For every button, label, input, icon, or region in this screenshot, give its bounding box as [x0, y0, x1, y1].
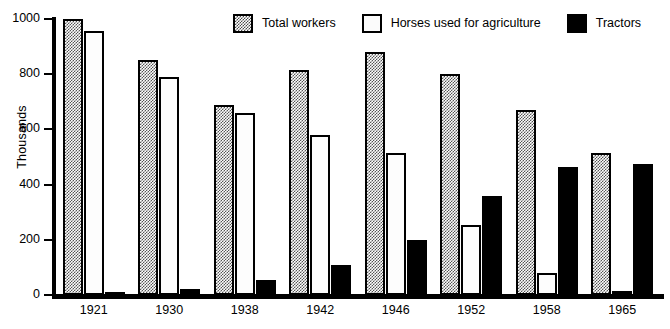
bar-tractors [633, 164, 653, 295]
bar-horses [386, 153, 406, 295]
x-axis-tick-label: 1965 [585, 303, 661, 317]
bar-total-workers [138, 60, 158, 295]
bar-horses [84, 31, 104, 295]
bar-group [207, 19, 283, 295]
bar-group [283, 19, 359, 295]
bar-group [56, 19, 132, 295]
bar-tractors [105, 292, 125, 295]
bar-group [585, 19, 661, 295]
x-axis-tick-label: 1958 [509, 303, 585, 317]
bar-total-workers [214, 105, 234, 295]
y-axis-tick-label: 400 [4, 178, 40, 190]
bar-total-workers [63, 19, 83, 295]
bar-horses [159, 77, 179, 295]
bar-group [434, 19, 510, 295]
bar-group [509, 19, 585, 295]
bar-total-workers [516, 110, 536, 295]
bar-tractors [256, 280, 276, 295]
bar-group [358, 19, 434, 295]
y-axis-tick [44, 294, 53, 296]
bar-tractors [482, 196, 502, 295]
bar-horses [310, 135, 330, 295]
bar-group [132, 19, 208, 295]
x-axis-tick-label: 1952 [434, 303, 510, 317]
bar-total-workers [440, 74, 460, 295]
y-axis-tick [44, 128, 53, 130]
y-axis-title: Thousands [15, 89, 29, 185]
y-axis-tick-label: 0 [4, 288, 40, 300]
y-axis-tick [44, 73, 53, 75]
y-axis-tick [44, 18, 53, 20]
y-axis-tick-label: 600 [4, 122, 40, 134]
x-axis-tick-label: 1930 [132, 303, 208, 317]
bar-total-workers [365, 52, 385, 295]
bar-tractors [407, 240, 427, 295]
y-axis-tick-label: 800 [4, 67, 40, 79]
y-axis-tick [44, 239, 53, 241]
bar-tractors [558, 167, 578, 295]
x-axis-tick-label: 1942 [283, 303, 359, 317]
y-axis-tick-label: 1000 [4, 12, 40, 24]
bar-tractors [180, 289, 200, 295]
bar-chart: Total workers Horses used for agricultur… [0, 0, 670, 329]
bar-tractors [331, 265, 351, 295]
bar-groups [56, 19, 660, 295]
x-axis-tick-labels: 19211930193819421946195219581965 [56, 303, 660, 317]
bar-horses [612, 291, 632, 295]
y-axis-tick [44, 184, 53, 186]
x-axis-tick-label: 1938 [207, 303, 283, 317]
bar-horses [537, 273, 557, 295]
bar-total-workers [289, 70, 309, 295]
bar-horses [235, 113, 255, 295]
bar-total-workers [591, 153, 611, 295]
x-axis-tick-label: 1921 [56, 303, 132, 317]
x-axis-tick-label: 1946 [358, 303, 434, 317]
y-axis-tick-label: 200 [4, 233, 40, 245]
bar-horses [461, 225, 481, 295]
